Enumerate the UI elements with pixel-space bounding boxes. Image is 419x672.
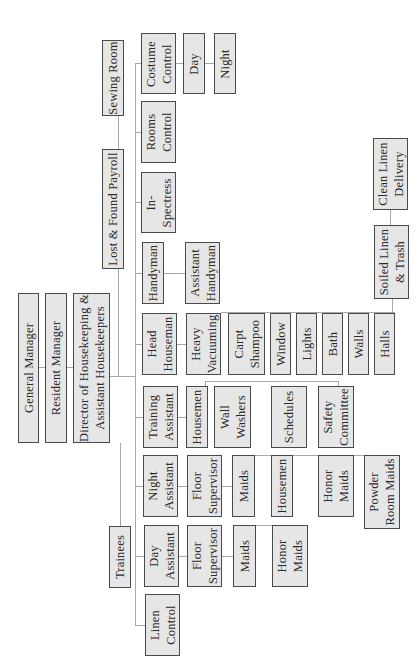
connector-line	[256, 525, 272, 526]
org-box-powder-room-maids: Powder Room Maids	[364, 455, 400, 529]
org-box-label: Costume Control	[143, 41, 175, 87]
org-box-label: In- Spectress	[143, 178, 175, 227]
org-box-day-assistant: Day Assistant	[144, 525, 179, 587]
org-box-label: Housemen	[274, 458, 290, 513]
org-box-clean-linen: Clean Linen Delivery	[373, 138, 408, 210]
org-box-label: Resident Manager	[48, 321, 64, 416]
connector-line	[135, 486, 143, 487]
org-box-label: Walls	[351, 329, 367, 358]
org-box-label: Clean Linen Delivery	[375, 142, 407, 206]
org-box-label: Day	[186, 53, 202, 74]
connector-line	[135, 556, 144, 557]
org-box-label: Training Assistant	[145, 393, 177, 441]
org-box-housemen-night: Housemen	[271, 455, 293, 517]
org-box-label: Bath	[325, 332, 341, 356]
org-box-label: Night	[217, 49, 233, 78]
connector-line	[392, 299, 393, 313]
connector-line	[118, 269, 119, 376]
org-box-label: Soiled Linen & Trash	[376, 229, 408, 296]
org-box-sewing-room: Sewing Room	[102, 40, 124, 116]
connector-line	[222, 556, 233, 557]
org-box-lost-found: Lost & Found Payroll	[102, 149, 124, 269]
org-box-trainees: Trainees	[109, 526, 131, 588]
org-box-label: Trainees	[112, 535, 128, 579]
org-box-label: Carpt Shampoo	[231, 320, 263, 369]
connector-line	[135, 344, 142, 345]
org-box-label: Lights	[299, 327, 315, 360]
org-box-head-houseman: Head Houseman	[142, 313, 177, 375]
org-box-halls: Halls	[374, 313, 395, 375]
org-box-honor-maids-night: Honor Maids	[318, 455, 354, 517]
org-box-maids-night: Maids	[232, 455, 255, 517]
org-box-general-manager: General Manager	[18, 293, 39, 443]
org-box-label: Schedules	[281, 391, 297, 443]
org-box-costume-night: Night	[214, 33, 236, 94]
connector-line	[179, 556, 187, 557]
org-box-floor-sup-day: Floor Supervisor	[187, 525, 222, 587]
org-box-costume-control: Costume Control	[141, 33, 176, 94]
org-box-label: Housemen	[189, 389, 205, 444]
org-box-label: Lost & Found Payroll	[105, 152, 121, 265]
org-box-label: Wall Washers	[217, 395, 249, 438]
connector-line	[118, 116, 119, 149]
org-box-label: Honor Maids	[320, 470, 352, 503]
org-box-label: Assistant Handyman	[187, 245, 219, 301]
org-box-label: Sewing Room	[105, 41, 121, 114]
org-box-lights: Lights	[296, 313, 317, 375]
org-box-wall-washers: Wall Washers	[214, 386, 251, 448]
org-box-bath: Bath	[322, 313, 343, 375]
org-box-costume-day: Day	[183, 33, 205, 94]
connector-line	[178, 486, 187, 487]
org-box-label: Linen Control	[147, 605, 179, 645]
org-box-label: Honor Maids	[274, 540, 306, 573]
org-box-heavy-vacuuming: Heavy Vacuuming	[186, 313, 221, 375]
org-box-label: Maids	[237, 540, 253, 572]
org-box-label: Day Assistant	[146, 532, 178, 580]
org-box-training-assistant: Training Assistant	[143, 386, 178, 448]
connector-line	[178, 417, 186, 418]
org-box-night-assistant: Night Assistant	[143, 455, 178, 517]
org-box-window: Window	[270, 313, 291, 375]
org-box-walls: Walls	[348, 313, 369, 375]
org-box-handyman: Handyman	[142, 242, 164, 304]
org-box-maids-day: Maids	[233, 525, 256, 587]
org-box-assistant-handyman: Assistant Handyman	[185, 242, 220, 304]
org-box-honor-maids-day: Honor Maids	[272, 525, 308, 587]
org-box-label: Halls	[377, 330, 393, 357]
connector-line	[205, 381, 339, 382]
connector-line	[390, 210, 391, 225]
connector-line	[164, 273, 185, 274]
org-box-label: Floor Supervisor	[189, 528, 221, 584]
org-box-carpt-shampoo: Carpt Shampoo	[228, 313, 265, 375]
org-box-soiled-linen: Soiled Linen & Trash	[374, 225, 409, 299]
org-box-label: Window	[273, 322, 289, 366]
org-box-label: Head Houseman	[144, 316, 176, 371]
connector-line	[135, 625, 145, 626]
org-box-floor-sup-night: Floor Supervisor	[187, 455, 222, 517]
connector-line	[110, 376, 135, 377]
org-box-label: General Manager	[21, 323, 37, 413]
org-box-label: Powder Room Maids	[366, 459, 398, 526]
org-box-label: Night Assistant	[145, 462, 177, 510]
org-box-director: Director of Housekeeping & Assistant Hou…	[73, 293, 110, 443]
org-box-label: Handyman	[145, 245, 161, 301]
org-box-linen-control: Linen Control	[145, 594, 180, 656]
org-box-label: Safety Committee	[320, 388, 352, 445]
org-box-in-spectress: In- Spectress	[141, 172, 176, 233]
org-box-schedules: Schedules	[271, 386, 307, 448]
org-box-label: Director of Housekeeping & Assistant Hou…	[76, 294, 108, 442]
connector-line	[135, 273, 142, 274]
connector-line	[120, 443, 121, 526]
org-box-resident-manager: Resident Manager	[45, 293, 67, 443]
org-chart: General ManagerResident ManagerDirector …	[0, 0, 419, 672]
org-box-label: Maids	[236, 470, 252, 502]
org-box-safety-committee: Safety Committee	[318, 386, 354, 448]
org-box-housemen-training: Housemen	[186, 386, 208, 448]
org-box-label: Floor Supervisor	[189, 458, 221, 514]
org-box-rooms-control: Rooms Control	[141, 101, 176, 163]
connector-line	[222, 486, 232, 487]
org-box-label: Heavy Vacuuming	[188, 315, 220, 374]
org-box-label: Rooms Control	[143, 112, 175, 152]
connector-line	[177, 344, 186, 345]
connector-line	[135, 417, 143, 418]
